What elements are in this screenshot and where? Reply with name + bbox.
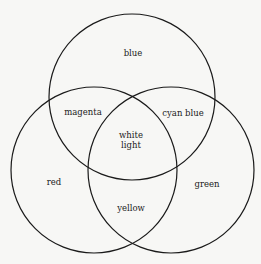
label-light: light	[121, 140, 141, 150]
label-red: red	[47, 177, 62, 187]
label-white: white	[119, 130, 143, 140]
venn-diagram: blue magenta cyan blue white light red g…	[0, 0, 261, 264]
label-green: green	[194, 179, 220, 189]
label-blue: blue	[124, 48, 143, 58]
label-yellow: yellow	[116, 203, 145, 213]
label-magenta: magenta	[64, 107, 102, 117]
label-cyan-blue: cyan blue	[162, 108, 203, 118]
